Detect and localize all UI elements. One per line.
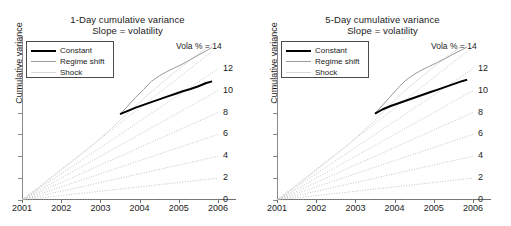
chart-title-5day: 5-Day cumulative variance Slope = volati… xyxy=(255,14,510,36)
legend-swatch-icon xyxy=(286,50,311,52)
legend-swatch-icon xyxy=(31,72,56,73)
y-axis-tick xyxy=(273,156,277,157)
vola-axis-header: Vola % = 14 xyxy=(431,41,477,51)
legend-label: Regime shift xyxy=(60,56,104,67)
reference-ray-8 xyxy=(22,113,218,200)
right-axis-tick-12: 12 xyxy=(223,63,233,73)
y-axis-tick xyxy=(273,91,277,92)
dual-chart-figure: 1-Day cumulative variance Slope = volati… xyxy=(0,0,511,226)
reference-ray-2 xyxy=(22,178,218,200)
y-axis-tick xyxy=(273,178,277,179)
right-axis-tick-2: 2 xyxy=(478,172,483,182)
y-axis-tick xyxy=(273,47,277,48)
x-axis-tick-label-2002: 2002 xyxy=(41,203,81,213)
series-line-constant xyxy=(120,81,212,114)
x-axis-tick-label-2001: 2001 xyxy=(2,203,42,213)
legend-1day: ConstantRegime shiftShock xyxy=(26,41,114,78)
right-axis-tick-6: 6 xyxy=(223,128,228,138)
chart-title-line1: 5-Day cumulative variance xyxy=(255,14,510,25)
x-axis-tick-label-2003: 2003 xyxy=(335,203,375,213)
right-axis-tick-4: 4 xyxy=(478,150,483,160)
y-axis-tick xyxy=(18,91,22,92)
right-axis-tick-2: 2 xyxy=(223,172,228,182)
x-axis-tick-label-2005: 2005 xyxy=(414,203,454,213)
reference-ray-10 xyxy=(277,91,473,200)
reference-ray-6 xyxy=(277,134,473,200)
legend-label: Shock xyxy=(60,67,82,78)
chart-panel-1day: 1-Day cumulative variance Slope = volati… xyxy=(0,0,255,226)
chart-title-line2: Slope = volatility xyxy=(255,25,510,36)
chart-panel-5day: 5-Day cumulative variance Slope = volati… xyxy=(255,0,510,226)
x-axis-tick-label-2005: 2005 xyxy=(159,203,199,213)
y-axis-tick xyxy=(18,47,22,48)
vola-axis-header: Vola % = 14 xyxy=(176,41,222,51)
legend-label: Constant xyxy=(315,45,347,56)
y-axis-tick xyxy=(18,178,22,179)
y-axis-tick xyxy=(18,113,22,114)
legend-item-regime-shift[interactable]: Regime shift xyxy=(282,56,368,67)
reference-ray-2 xyxy=(277,178,473,200)
legend-5day: ConstantRegime shiftShock xyxy=(281,41,369,78)
chart-title-1day: 1-Day cumulative variance Slope = volati… xyxy=(0,14,255,36)
x-axis-tick-label-2001: 2001 xyxy=(257,203,297,213)
right-axis-tick-4: 4 xyxy=(223,150,228,160)
legend-swatch-icon xyxy=(31,50,56,52)
x-axis-tick-label-2004: 2004 xyxy=(120,203,160,213)
x-axis-tick-label-2003: 2003 xyxy=(80,203,120,213)
legend-swatch-icon xyxy=(286,61,311,62)
series-line-regime-shift xyxy=(120,47,212,114)
legend-label: Regime shift xyxy=(315,56,359,67)
legend-item-regime-shift[interactable]: Regime shift xyxy=(27,56,113,67)
reference-ray-6 xyxy=(22,134,218,200)
right-axis-tick-8: 8 xyxy=(223,107,228,117)
legend-item-shock[interactable]: Shock xyxy=(27,67,113,78)
y-axis-tick xyxy=(18,134,22,135)
legend-item-shock[interactable]: Shock xyxy=(282,67,368,78)
y-axis-tick xyxy=(18,69,22,70)
legend-label: Shock xyxy=(315,67,337,78)
legend-swatch-icon xyxy=(286,72,311,73)
x-axis-tick-label-2004: 2004 xyxy=(375,203,415,213)
x-axis-tick-label-2002: 2002 xyxy=(296,203,336,213)
right-axis-tick-10: 10 xyxy=(478,85,488,95)
reference-ray-12 xyxy=(22,69,218,200)
x-axis-tick-label-2006: 2006 xyxy=(453,203,493,213)
y-axis-tick xyxy=(273,69,277,70)
right-axis-tick-10: 10 xyxy=(223,85,233,95)
right-axis-tick-12: 12 xyxy=(478,63,488,73)
legend-swatch-icon xyxy=(31,61,56,62)
y-axis-tick xyxy=(18,156,22,157)
legend-item-constant[interactable]: Constant xyxy=(282,45,368,56)
reference-ray-8 xyxy=(277,113,473,200)
chart-title-line1: 1-Day cumulative variance xyxy=(0,14,255,25)
chart-title-line2: Slope = volatility xyxy=(0,25,255,36)
reference-ray-10 xyxy=(22,91,218,200)
right-axis-tick-8: 8 xyxy=(478,107,483,117)
legend-item-constant[interactable]: Constant xyxy=(27,45,113,56)
y-axis-tick xyxy=(273,134,277,135)
x-axis-tick-label-2006: 2006 xyxy=(198,203,238,213)
legend-label: Constant xyxy=(60,45,92,56)
y-axis-tick xyxy=(273,113,277,114)
right-axis-tick-6: 6 xyxy=(478,128,483,138)
series-line-regime-shift xyxy=(375,47,467,114)
series-line-constant xyxy=(375,80,467,114)
